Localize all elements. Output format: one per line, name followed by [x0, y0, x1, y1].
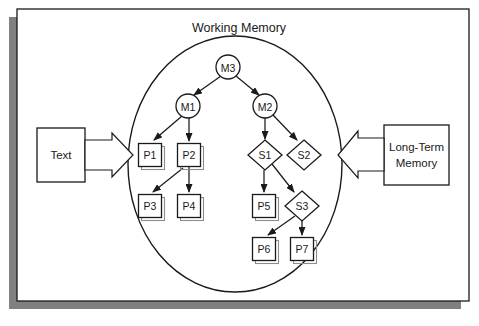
node-P1-label: P1	[144, 149, 157, 161]
node-P7[interactable]: P7	[291, 238, 314, 261]
node-P1[interactable]: P1	[139, 144, 162, 167]
node-P6-label: P6	[258, 243, 271, 255]
node-M2[interactable]: M2	[253, 94, 277, 118]
node-P3-label: P3	[144, 200, 157, 212]
working-memory-diagram: Working Memory Text Long-Term Memory	[0, 0, 479, 326]
long-term-memory-label-line2: Memory	[396, 157, 438, 169]
node-S1-label: S1	[259, 149, 272, 161]
figure-canvas: Working Memory Text Long-Term Memory	[0, 0, 479, 326]
node-P6[interactable]: P6	[253, 238, 276, 261]
long-term-memory-box[interactable]: Long-Term Memory	[384, 125, 449, 185]
node-M2-label: M2	[258, 101, 273, 113]
node-P7-label: P7	[296, 243, 309, 255]
node-P3[interactable]: P3	[139, 195, 162, 218]
node-P2-label: P2	[183, 149, 196, 161]
node-S2-label: S2	[298, 149, 311, 161]
text-box[interactable]: Text	[37, 128, 85, 182]
figure-title: Working Memory	[192, 21, 287, 35]
node-M3[interactable]: M3	[216, 55, 240, 79]
node-P4-label: P4	[183, 200, 196, 212]
node-M1-label: M1	[181, 101, 196, 113]
long-term-memory-label-line1: Long-Term	[389, 141, 444, 153]
node-P4[interactable]: P4	[178, 195, 201, 218]
node-P5[interactable]: P5	[253, 195, 276, 218]
node-P2[interactable]: P2	[178, 144, 201, 167]
node-M3-label: M3	[221, 62, 236, 74]
long-term-memory-rect	[384, 125, 449, 185]
node-S3-label: S3	[296, 200, 309, 212]
node-M1[interactable]: M1	[176, 94, 200, 118]
text-box-label: Text	[50, 149, 72, 161]
node-P5-label: P5	[258, 200, 271, 212]
